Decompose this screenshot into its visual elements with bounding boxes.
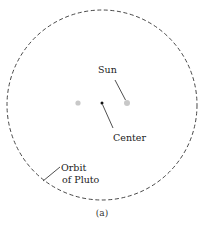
- barycenter-diagram: Sun Center Orbit of Pluto (a): [0, 0, 204, 227]
- orbit-leader-line: [43, 167, 60, 181]
- sun-label: Sun: [98, 64, 117, 75]
- orbit-label-line2: of Pluto: [62, 174, 100, 185]
- center-dot: [101, 102, 104, 105]
- sun-leader-line: [115, 80, 126, 100]
- figure-caption: (a): [96, 208, 108, 218]
- orbit-label-line1: Orbit: [61, 162, 86, 173]
- center-label: Center: [113, 132, 146, 143]
- center-leader-line: [103, 105, 114, 129]
- pluto-orbit-circle: [7, 10, 197, 200]
- companion-body-dot: [75, 100, 80, 105]
- sun-dot: [124, 100, 130, 106]
